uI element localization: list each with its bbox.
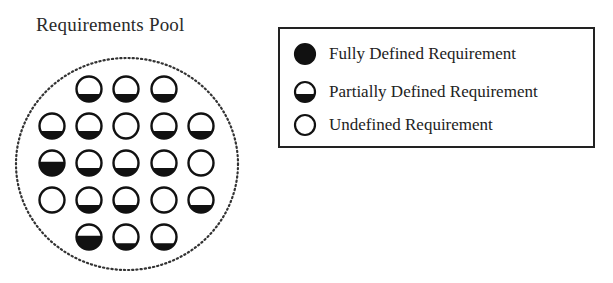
partially-defined-requirement-icon (152, 225, 177, 250)
undefined-requirement-icon (189, 151, 214, 176)
partially-defined-requirement-icon (189, 188, 214, 213)
partially-defined-requirement-icon (152, 114, 177, 139)
partially-defined-requirement-icon (40, 114, 65, 139)
partially-defined-requirement-icon (152, 77, 177, 102)
legend-item-fully-defined: Fully Defined Requirement (280, 41, 516, 67)
legend-item-undefined: Undefined Requirement (280, 112, 493, 138)
partially-defined-requirement-icon (114, 77, 139, 102)
partially-defined-requirement-icon (40, 151, 65, 176)
partially-defined-requirement-icon (77, 188, 102, 213)
undefined-requirement-icon (114, 114, 139, 139)
partially-defined-requirement-icon (189, 114, 214, 139)
full-circle-icon (293, 42, 317, 66)
partially-defined-requirement-icon (77, 151, 102, 176)
legend: Fully Defined Requirement Partially Defi… (278, 27, 595, 148)
partially-defined-requirement-icon (152, 151, 177, 176)
empty-circle-icon (293, 113, 317, 137)
undefined-requirement-icon (40, 188, 65, 213)
partially-defined-requirement-icon (77, 225, 102, 250)
legend-item-partially-defined: Partially Defined Requirement (280, 79, 538, 105)
requirement-circles (40, 77, 214, 250)
partially-defined-requirement-icon (114, 188, 139, 213)
undefined-requirement-icon (152, 188, 177, 213)
partially-defined-requirement-icon (77, 114, 102, 139)
partially-defined-requirement-icon (114, 151, 139, 176)
partially-defined-requirement-icon (114, 225, 139, 250)
partially-defined-requirement-icon (77, 77, 102, 102)
half-circle-icon (293, 80, 317, 104)
